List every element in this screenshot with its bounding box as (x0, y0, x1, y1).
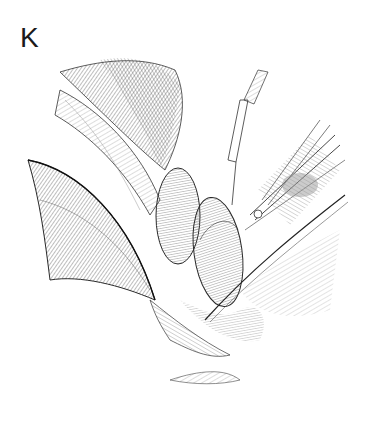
surgical-illustration (0, 0, 369, 426)
vessels (228, 70, 268, 205)
surgical-instruments (245, 120, 345, 230)
lower-tissue (150, 300, 264, 384)
